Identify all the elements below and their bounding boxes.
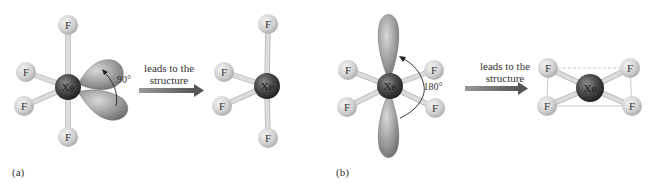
arrow-text-line1: leads to the [480, 60, 530, 72]
svg-text:F: F [219, 100, 225, 112]
svg-text:F: F [627, 62, 633, 74]
arrow-text-line1: leads to the [144, 62, 194, 74]
svg-text:F: F [629, 100, 635, 112]
angle-label-90: 90° [117, 74, 131, 85]
arrow-text-line2: structure [486, 72, 525, 84]
lone-pair-lobe-bottom [378, 96, 399, 158]
xef4-diagram: Xe F F F F 90° leads to the structure [0, 0, 658, 186]
svg-text:F: F [65, 19, 71, 31]
svg-text:F: F [345, 64, 351, 76]
svg-text:Xe: Xe [584, 82, 597, 94]
angle-arc [400, 58, 424, 118]
angle-arrowhead-icon [399, 56, 406, 62]
svg-text:Xe: Xe [261, 80, 274, 92]
panel-a-result-molecule: Xe F F F F [212, 14, 280, 148]
angle-label-180: 180° [424, 81, 443, 92]
panel-label-a: (a) [12, 166, 25, 179]
panel-b-result-molecule: Xe F F F F [537, 58, 642, 116]
panel-a-molecule-with-lone-pairs: Xe F F F F 90° [14, 15, 131, 147]
svg-text:F: F [221, 66, 227, 78]
arrow-text-line2: structure [150, 74, 189, 86]
panel-b-arrow: leads to the structure [465, 60, 530, 95]
svg-text:Xe: Xe [384, 80, 397, 92]
panel-label-b: (b) [336, 166, 349, 179]
xenon-label: Xe [62, 81, 75, 93]
svg-text:F: F [431, 64, 437, 76]
lone-pair-lobes [78, 60, 128, 120]
svg-text:F: F [544, 100, 550, 112]
right-arrow-icon [194, 84, 204, 97]
svg-text:F: F [21, 100, 27, 112]
lone-pair-lobe-top [378, 15, 399, 77]
svg-text:F: F [265, 132, 271, 144]
panel-b-molecule-with-lone-pairs: Xe F F F F 180° [337, 15, 445, 158]
svg-text:F: F [432, 102, 438, 114]
svg-text:F: F [344, 101, 350, 113]
panel-a-arrow: leads to the structure [139, 62, 204, 97]
svg-text:F: F [545, 62, 551, 74]
svg-text:F: F [23, 66, 29, 78]
svg-text:F: F [265, 18, 271, 30]
svg-text:F: F [65, 131, 71, 143]
